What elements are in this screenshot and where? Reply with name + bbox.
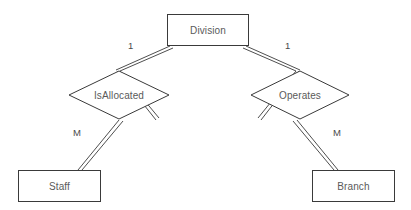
er-diagram-canvas: Division Staff Branch IsAllocated Operat… xyxy=(0,0,411,210)
relationship-isallocated[interactable]: IsAllocated xyxy=(68,70,170,120)
connector-operates-branch xyxy=(293,120,338,170)
entity-branch-label: Branch xyxy=(337,181,369,192)
entity-branch[interactable]: Branch xyxy=(312,170,395,202)
cardinality-operates-branch: M xyxy=(333,128,341,138)
entity-division-label: Division xyxy=(190,25,226,36)
cardinality-division-operates: 1 xyxy=(285,41,290,51)
relationship-operates[interactable]: Operates xyxy=(250,70,350,120)
connector-isallocated-staff xyxy=(78,120,123,170)
cardinality-division-isallocated: 1 xyxy=(128,41,133,51)
entity-staff-label: Staff xyxy=(49,181,70,192)
entity-division[interactable]: Division xyxy=(167,14,249,46)
entity-staff[interactable]: Staff xyxy=(18,170,101,202)
cardinality-isallocated-staff: M xyxy=(73,128,81,138)
relationship-isallocated-label: IsAllocated xyxy=(94,90,144,101)
relationship-operates-label: Operates xyxy=(279,90,321,101)
